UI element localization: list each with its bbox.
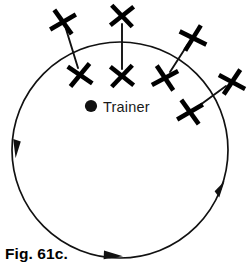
figure-diagram: Trainer Fig. 61c. [0, 0, 252, 266]
cone-marker-inner-4 [177, 100, 203, 124]
cone-pair-2 [110, 5, 133, 86]
cone-marker-outer-3 [180, 25, 207, 50]
cone-marker-inner-1 [68, 64, 93, 87]
direction-arrow-left [13, 139, 21, 158]
trainer-label: Trainer [103, 99, 150, 115]
cone-marker-outer-4 [219, 70, 245, 95]
cone-pair-3 [152, 25, 206, 90]
cone-marker-inner-3 [152, 66, 178, 91]
direction-arrow-right [215, 181, 225, 197]
cone-connector-1 [66, 29, 78, 68]
figure-container: Trainer Fig. 61c. [0, 0, 252, 266]
trainer-dot-icon [85, 100, 97, 112]
trainer-group: Trainer [85, 99, 150, 115]
cone-pair-4 [177, 70, 245, 124]
cone-marker-outer-1 [50, 10, 76, 34]
figure-caption: Fig. 61c. [5, 245, 68, 262]
